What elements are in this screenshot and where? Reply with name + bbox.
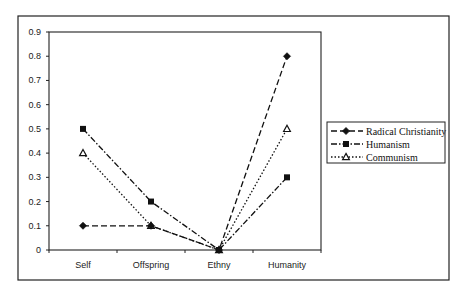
legend-label: Humanism: [366, 139, 410, 150]
y-tick-label: 0: [36, 245, 41, 255]
diamond-marker: [284, 53, 291, 60]
square-marker: [148, 199, 154, 205]
y-tick-label: 0.7: [28, 75, 41, 85]
y-tick-label: 0.4: [28, 148, 41, 158]
y-tick-label: 0.9: [28, 27, 41, 37]
x-category-label: Offspring: [133, 260, 169, 270]
x-category-label: Humanity: [268, 260, 307, 270]
series-line-2: [83, 129, 287, 250]
legend-square-icon: [343, 141, 349, 147]
x-axis: SelfOffspringEthnyHumanity: [49, 250, 321, 270]
triangle-open-marker: [284, 125, 291, 131]
legend-label: Communism: [366, 152, 418, 163]
series-line-1: [83, 129, 287, 250]
series-lines: [83, 56, 287, 250]
square-marker: [284, 174, 290, 180]
y-tick-label: 0.8: [28, 51, 41, 61]
y-tick-label: 0.5: [28, 124, 41, 134]
y-tick-label: 0.2: [28, 197, 41, 207]
square-marker: [80, 126, 86, 132]
series-line-0: [83, 56, 287, 250]
legend-label: Radical Christianity: [366, 126, 446, 137]
plot-area: [49, 32, 321, 250]
triangle-open-marker: [80, 150, 87, 156]
diamond-marker: [80, 222, 87, 229]
chart: 00.10.20.30.40.50.60.70.80.9 SelfOffspri…: [0, 0, 467, 292]
y-tick-label: 0.1: [28, 221, 41, 231]
y-axis: 00.10.20.30.40.50.60.70.80.9: [28, 27, 49, 255]
x-category-label: Ethny: [207, 260, 231, 270]
y-tick-label: 0.6: [28, 100, 41, 110]
series-markers: [80, 53, 291, 254]
y-tick-label: 0.3: [28, 172, 41, 182]
x-category-label: Self: [75, 260, 91, 270]
